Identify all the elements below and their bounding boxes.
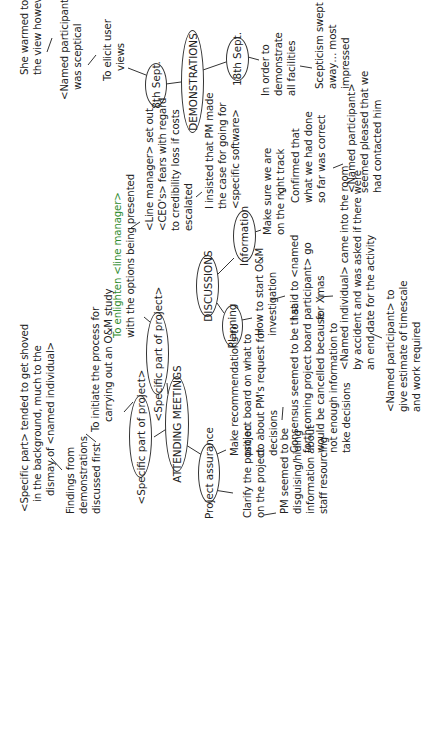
node-discussions[interactable]: DISCUSSIONS — [196, 255, 219, 317]
note-demonstrate-facilities: In order to demonstrate all facilities — [259, 32, 298, 96]
node-18th-sept[interactable]: 18th Sept. — [226, 37, 249, 81]
note-right-track: Make sure we are on the right track — [261, 148, 287, 235]
note-clarify-position: Clarify the position on the project — [241, 425, 267, 518]
note-line-manager-fears: <Line manager> set out <CEO's> fears wit… — [143, 98, 195, 231]
note-elicit-views: To elicit user views — [101, 19, 127, 81]
note-shoved: <Specific part> tended to get shoved in … — [18, 324, 57, 512]
note-she-warmed: She warmed to the view however — [18, 0, 44, 75]
note-pm-made-case: I insisted that PM made the case for goi… — [203, 93, 242, 210]
node-project-assurance[interactable]: Project assurance — [198, 443, 220, 503]
note-findings: Findings from demonstrations discussed f… — [64, 436, 103, 514]
note-initiate-process: To initiate the process for carrying out… — [89, 289, 115, 432]
note-was-sceptical: <Named participant> was sceptical — [58, 0, 84, 100]
note-give-estimate: <Named participant> to give estimate of … — [384, 281, 423, 412]
note-confirmed: Confirmed that what we had done so far w… — [289, 111, 328, 203]
node-specific-part-top[interactable]: <Specific part of project> — [146, 312, 169, 395]
node-attending-meetings[interactable]: ATTENDING MEETINGS — [165, 376, 189, 472]
mind-map-canvas: DEMONSTRATIONS 8th Sept. 18th Sept. DISC… — [0, 0, 430, 751]
note-pm-disguising: PM seemed to be disguising/hiding inform… — [278, 425, 330, 514]
node-specific-part-left[interactable]: <Specific part of project> — [129, 395, 152, 478]
